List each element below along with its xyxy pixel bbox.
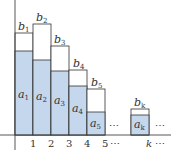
bar-2 (33, 24, 51, 135)
bar-3 (51, 46, 69, 135)
tick-3: 3 (66, 138, 72, 149)
b-label-4: b4 (73, 57, 85, 71)
b-label-5: b5 (91, 76, 103, 90)
ellipsis-right: ⋯ (155, 120, 165, 131)
ellipsis-mid: ⋯ (109, 120, 119, 131)
tick-ellipsis-mid: ⋯ (110, 138, 120, 149)
tick-4: 4 (84, 138, 90, 149)
tick-k: k (146, 138, 152, 149)
b-label-2: b2 (36, 11, 48, 25)
tick-ellipsis-right: ⋯ (155, 138, 165, 149)
b-label-3: b3 (54, 33, 66, 47)
b-label-k: bk (134, 96, 146, 110)
tick-1: 1 (30, 138, 36, 149)
tick-2: 2 (48, 138, 54, 149)
tick-5: 5 (102, 138, 108, 149)
bar-comparison-diagram: b1 b2 b3 b4 b5 bk a1 a2 a3 a4 a5 ak ⋯ ⋯ … (0, 0, 171, 150)
bar-1 (15, 33, 33, 135)
b-label-1: b1 (18, 20, 30, 34)
